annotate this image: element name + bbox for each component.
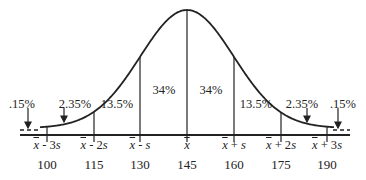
sd-tick-label: x - 3s	[33, 138, 60, 153]
percent-label: 2.35%	[286, 97, 318, 112]
value-label: 115	[84, 157, 103, 173]
normal-curve-graphic	[0, 0, 366, 180]
sd-tick-label: x - s	[130, 138, 151, 153]
percent-label: 13.5%	[240, 97, 272, 112]
value-label: 130	[130, 157, 150, 173]
value-label: 190	[317, 157, 337, 173]
sd-tick-label: x + s	[222, 138, 246, 153]
value-label: 175	[271, 157, 291, 173]
percent-label: 34%	[200, 83, 223, 98]
value-label: 160	[224, 157, 244, 173]
sd-tick-label: x	[184, 138, 190, 153]
value-label: 100	[37, 157, 57, 173]
value-label: 145	[177, 157, 197, 173]
sd-divider-lines	[47, 10, 327, 142]
sd-tick-label: x + 3s	[312, 138, 342, 153]
percent-label: 34%	[153, 83, 176, 98]
sd-tick-label: x - 2s	[80, 138, 107, 153]
sd-tick-label: x + 2s	[266, 138, 296, 153]
percent-label: .15%	[9, 97, 35, 112]
percent-label: 2.35%	[59, 97, 91, 112]
percent-label: 13.5%	[101, 97, 133, 112]
percent-label: .15%	[330, 97, 356, 112]
